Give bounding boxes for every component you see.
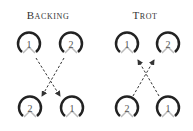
svg-text:2: 2 — [69, 39, 74, 50]
arrow-icon — [138, 60, 159, 96]
svg-text:1: 1 — [166, 103, 171, 114]
backing-panel: Backing 1 2 2 1 — [0, 0, 96, 131]
arrow-icon — [133, 60, 154, 96]
svg-text:1: 1 — [27, 39, 32, 50]
arrow-icon — [42, 58, 64, 96]
svg-text:2: 2 — [28, 103, 33, 114]
backing-diagram: 1 2 2 1 — [0, 0, 96, 131]
svg-text:1: 1 — [70, 103, 75, 114]
hoof-icon: 2 — [19, 97, 41, 117]
hoof-icon: 1 — [61, 97, 83, 117]
svg-text:1: 1 — [125, 39, 130, 50]
hoof-icon: 2 — [157, 33, 179, 53]
hoof-icon: 2 — [116, 97, 138, 117]
hoof-icon: 1 — [157, 97, 179, 117]
hoof-icon: 2 — [60, 33, 82, 53]
trot-diagram: 1 2 2 1 — [97, 0, 193, 131]
svg-text:2: 2 — [125, 103, 130, 114]
svg-text:2: 2 — [166, 39, 171, 50]
trot-panel: Trot 1 2 2 1 — [97, 0, 193, 131]
hoof-icon: 1 — [116, 33, 138, 53]
arrow-icon — [36, 58, 60, 96]
hoof-icon: 1 — [18, 33, 40, 53]
